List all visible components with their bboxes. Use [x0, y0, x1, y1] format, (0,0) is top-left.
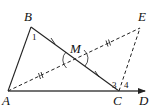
- label-angle-1: 1: [32, 32, 37, 42]
- segment-ab: [8, 27, 31, 91]
- label-point-d: D: [138, 93, 149, 107]
- angle-arc-m-left: [63, 52, 67, 68]
- label-point-a: A: [1, 93, 10, 107]
- segment-ce-dashed: [119, 28, 140, 91]
- label-angle-3: 3: [112, 80, 117, 90]
- angle-arc-m-right: [84, 50, 88, 66]
- label-point-b: B: [24, 9, 32, 24]
- label-point-m: M: [69, 41, 82, 56]
- label-point-c: C: [113, 93, 122, 107]
- geometry-diagram: B A C D E M 1 3 4: [0, 0, 152, 107]
- label-angle-4: 4: [124, 80, 129, 90]
- label-point-e: E: [137, 9, 146, 24]
